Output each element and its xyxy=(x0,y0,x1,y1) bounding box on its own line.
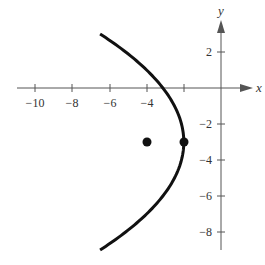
x-tick-label: −8 xyxy=(66,96,79,110)
y-axis-arrow-icon xyxy=(217,20,225,33)
x-axis-arrow-icon xyxy=(240,84,253,92)
y-tick-label: −2 xyxy=(199,117,212,131)
x-axis-label: x xyxy=(255,80,262,95)
y-tick-label: −6 xyxy=(199,189,212,203)
x-tick-label: −6 xyxy=(104,96,117,110)
x-tick-label: −10 xyxy=(26,96,45,110)
focus-point xyxy=(143,138,152,147)
y-tick-label: 2 xyxy=(206,45,212,59)
chart: x y −10 −8 −6 −4 2 −2 −4 −6 −8 xyxy=(0,0,265,265)
x-tick-label: −4 xyxy=(141,96,154,110)
y-tick-label: −4 xyxy=(199,153,212,167)
y-axis-label: y xyxy=(216,3,224,18)
parabola-curve xyxy=(100,34,184,250)
y-tick-label: −8 xyxy=(199,225,212,239)
vertex-point xyxy=(180,138,189,147)
